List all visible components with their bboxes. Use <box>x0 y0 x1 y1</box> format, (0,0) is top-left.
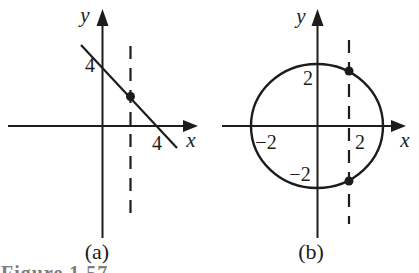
panel-b-tick-x-positive: 2 <box>355 131 365 153</box>
graphs-svg: y x 4 4 (a) y x 2 −2 2 −2 <box>0 0 419 273</box>
panel-b-tick-x-negative: −2 <box>255 131 276 153</box>
panel-a-x-intercept-tick: 4 <box>152 132 162 154</box>
panel-a-y-axis-label: y <box>78 3 90 27</box>
panel-b-caption: (b) <box>298 239 324 264</box>
panel-a-y-axis-arrow-icon <box>97 9 109 26</box>
panel-b-tick-y-positive: 2 <box>303 67 313 89</box>
panel-a-y-intercept-tick: 4 <box>85 54 95 76</box>
textbook-figure: y x 4 4 (a) y x 2 −2 2 −2 <box>0 0 419 273</box>
panel-b-marked-point-bottom <box>345 177 354 186</box>
panel-b: y x 2 −2 2 −2 (b) <box>222 4 410 264</box>
panel-b-tick-y-negative: −2 <box>289 163 310 185</box>
panel-b-x-axis-label: x <box>399 128 410 152</box>
figure-caption-cropped: Figure 1.57 <box>1 262 151 273</box>
panel-a: y x 4 4 (a) <box>8 3 198 264</box>
panel-a-marked-point <box>126 92 135 101</box>
panel-b-marked-point-top <box>345 67 354 76</box>
panel-a-caption: (a) <box>85 239 109 264</box>
panel-b-y-axis-label: y <box>294 4 306 28</box>
panel-b-y-axis-arrow-icon <box>312 9 324 26</box>
panel-a-x-axis-label: x <box>185 128 196 152</box>
